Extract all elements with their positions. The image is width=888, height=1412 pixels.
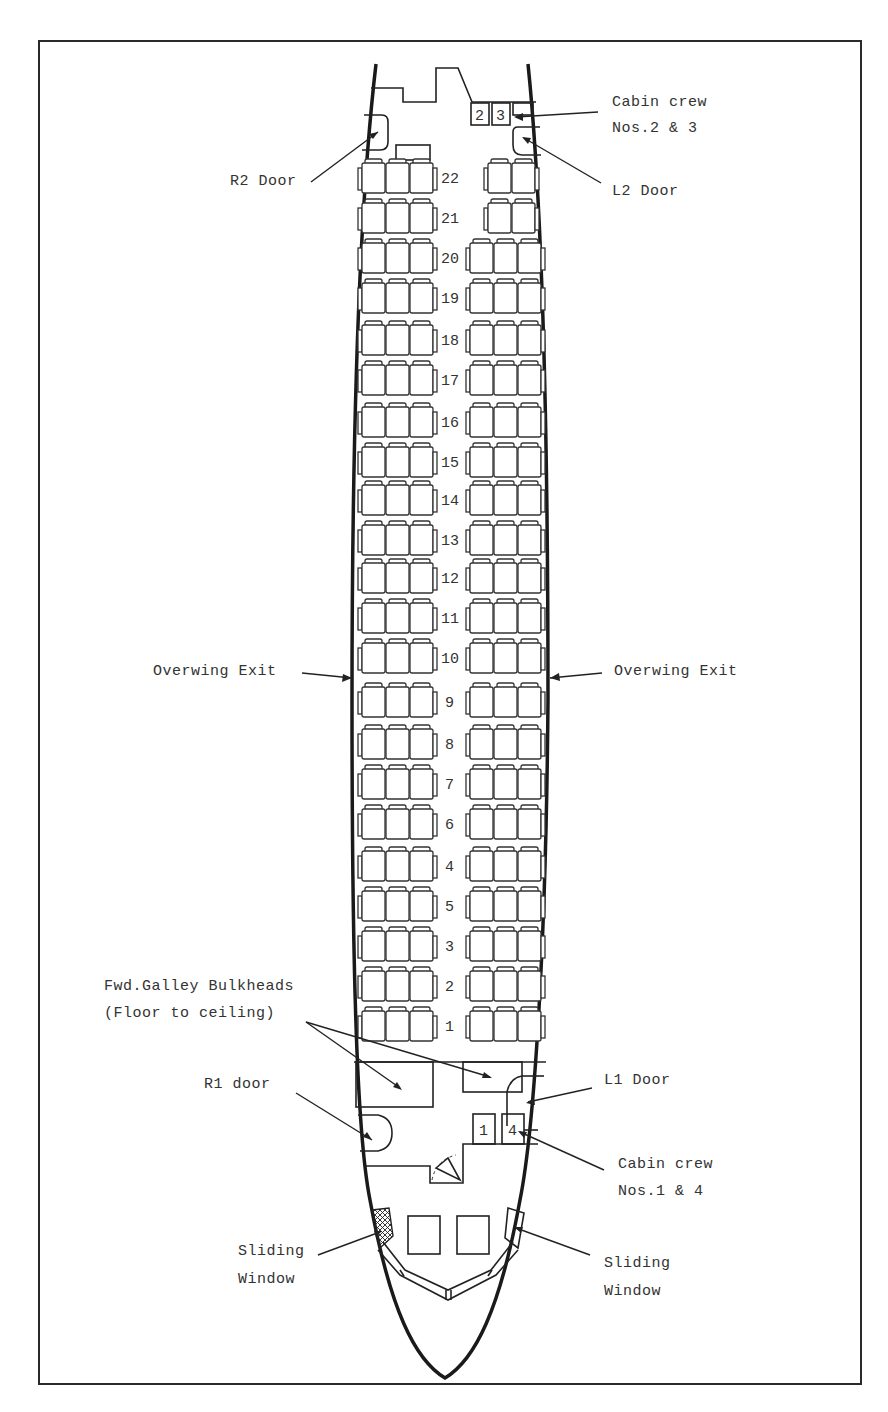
seat [386,559,409,593]
seat [386,321,409,355]
armrest [433,370,437,392]
seat [494,279,517,313]
seat [518,725,541,759]
seat-row-7: 7 [358,765,545,799]
armrest [433,896,437,918]
seat [386,847,409,881]
label-cabin-crew-2-3-nos: Nos.2 & 3 [612,121,698,136]
seat [470,639,493,673]
seat [518,765,541,799]
seat [518,805,541,839]
armrest [433,774,437,796]
seat [362,683,385,717]
seat [386,239,409,273]
seat-row-16: 16 [358,403,545,437]
seat [410,559,433,593]
first-officer-seat [457,1216,489,1254]
seat [410,199,433,233]
seat [470,403,493,437]
seat [410,805,433,839]
seat [488,159,511,193]
seat [362,403,385,437]
seat [518,639,541,673]
seat [362,199,385,233]
seat [410,321,433,355]
seat-row-1: 1 [358,1007,545,1041]
seat [410,847,433,881]
seat-row-11: 11 [358,599,545,633]
seat [386,481,409,515]
label-cabin-crew-1-4-nos: Nos.1 & 4 [618,1184,704,1199]
seat [494,765,517,799]
seat [386,599,409,633]
seat [494,559,517,593]
seat-row-3: 3 [358,927,545,961]
seat-row-9: 9 [358,683,545,717]
seat-row-22: 22 [358,159,539,193]
label-overwing-exit-right: Overwing Exit [614,664,738,679]
armrest [541,288,545,310]
seat [494,521,517,555]
sliding-window-left-hatched [372,1208,393,1248]
seat-row-20: 20 [358,239,545,273]
seat [470,361,493,395]
seat-row-19: 19 [358,279,545,313]
row-number: 1 [445,1019,454,1036]
seat [518,927,541,961]
seat [386,199,409,233]
row-number: 19 [441,291,459,308]
seat [518,361,541,395]
seat [518,599,541,633]
armrest [541,692,545,714]
seat [518,1007,541,1041]
seat [518,887,541,921]
armrest [541,936,545,958]
seat [494,1007,517,1041]
seat [362,481,385,515]
seat [494,239,517,273]
seat [494,927,517,961]
seat [386,361,409,395]
seat [410,639,433,673]
armrest [433,856,437,878]
row-number: 4 [445,859,454,876]
seat [494,805,517,839]
seat [362,443,385,477]
seat [518,443,541,477]
seat [410,403,433,437]
label-floor-to-ceiling: (Floor to ceiling) [104,1006,275,1021]
seat [362,521,385,555]
armrest [541,330,545,352]
seat [386,805,409,839]
seat [362,765,385,799]
armrest [433,288,437,310]
label-sliding-window-right: Sliding [604,1256,671,1271]
seat [362,159,385,193]
armrest [535,208,539,230]
row-number: 2 [445,979,454,996]
armrest [433,1016,437,1038]
seat [518,403,541,437]
r2-door-recess [362,115,388,150]
armrest [433,208,437,230]
seat-row-14: 14 [358,481,545,515]
row-number: 22 [441,171,459,188]
aft-crew-seats: 2 3 [471,103,533,125]
armrest [541,648,545,670]
seat [386,1007,409,1041]
seat [410,887,433,921]
row-number: 11 [441,611,459,628]
seat [470,279,493,313]
seat [362,639,385,673]
annotation-arrows [296,112,604,1255]
label-sliding-window-right-2: Window [604,1284,661,1299]
armrest [541,774,545,796]
armrest [541,530,545,552]
seat [494,967,517,1001]
armrest [433,248,437,270]
seat [470,599,493,633]
seat [470,521,493,555]
armrest [541,370,545,392]
row-number: 20 [441,251,459,268]
seat [386,927,409,961]
